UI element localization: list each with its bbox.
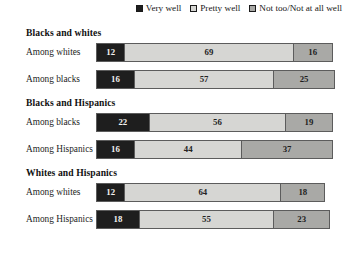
chart-group: Blacks and HispanicsAmong blacks225619Am…	[0, 94, 348, 164]
stacked-bar: 126418	[96, 183, 340, 202]
legend-entry-pretty: Pretty well	[190, 3, 240, 13]
bar-segment-value: 19	[305, 118, 314, 127]
chart-row: Among Hispanics164437	[0, 137, 348, 164]
stacked-bar: 165725	[96, 70, 340, 89]
stacked-bar: 164437	[96, 140, 340, 159]
bar-segment-not: 16	[294, 43, 333, 62]
legend-label-not: Not too/Not at all well	[259, 3, 342, 13]
row-label: Among whites	[26, 47, 81, 58]
legend-swatch-very	[136, 5, 143, 12]
bar-segment-value: 12	[106, 188, 115, 197]
bar-segment-pretty: 69	[125, 43, 293, 62]
chart-group: Blacks and whitesAmong whites126916Among…	[0, 24, 348, 94]
bar-segment-value: 12	[106, 48, 115, 57]
group-title: Blacks and Hispanics	[0, 94, 348, 110]
chart-row: Among whites126418	[0, 180, 348, 207]
row-label: Among Hispanics	[26, 214, 93, 225]
bar-segment-value: 16	[111, 145, 120, 154]
bar-segment-value: 25	[300, 75, 309, 84]
legend-label-pretty: Pretty well	[200, 3, 240, 13]
bar-segment-very: 16	[96, 70, 135, 89]
legend-label-very: Very well	[146, 3, 181, 13]
chart-group: Whites and HispanicsAmong whites126418Am…	[0, 164, 348, 234]
bar-segment-value: 37	[283, 145, 292, 154]
chart-legend: Very wellPretty wellNot too/Not at all w…	[0, 3, 348, 13]
bar-segment-value: 22	[118, 118, 127, 127]
bar-segment-value: 16	[111, 75, 120, 84]
bar-segment-very: 12	[96, 183, 125, 202]
stacked-bar-chart: Very wellPretty wellNot too/Not at all w…	[0, 0, 348, 258]
stacked-bar: 225619	[96, 113, 340, 132]
bar-segment-value: 16	[308, 48, 317, 57]
chart-plot-area: Blacks and whitesAmong whites126916Among…	[0, 24, 348, 234]
bar-segment-not: 23	[274, 210, 330, 229]
legend-entry-very: Very well	[136, 3, 181, 13]
bar-segment-not: 18	[281, 183, 325, 202]
bar-segment-not: 25	[274, 70, 335, 89]
chart-row: Among blacks165725	[0, 67, 348, 94]
stacked-bar: 185523	[96, 210, 340, 229]
chart-row: Among Hispanics185523	[0, 207, 348, 234]
legend-swatch-pretty	[190, 5, 197, 12]
bar-segment-very: 18	[96, 210, 140, 229]
bar-segment-value: 44	[184, 145, 193, 154]
bar-segment-not: 19	[286, 113, 332, 132]
row-label: Among Hispanics	[26, 144, 93, 155]
bar-segment-pretty: 44	[135, 140, 242, 159]
bar-segment-very: 16	[96, 140, 135, 159]
bar-segment-pretty: 57	[135, 70, 274, 89]
chart-row: Among blacks225619	[0, 110, 348, 137]
group-title: Whites and Hispanics	[0, 164, 348, 180]
chart-row: Among whites126916	[0, 40, 348, 67]
row-label: Among blacks	[26, 117, 80, 128]
bar-segment-pretty: 56	[150, 113, 287, 132]
bar-segment-value: 69	[205, 48, 214, 57]
bar-segment-not: 37	[242, 140, 332, 159]
row-label: Among whites	[26, 187, 81, 198]
legend-swatch-not	[249, 5, 256, 12]
bar-segment-very: 12	[96, 43, 125, 62]
bar-segment-very: 22	[96, 113, 150, 132]
bar-segment-value: 64	[198, 188, 207, 197]
group-title: Blacks and whites	[0, 24, 348, 40]
bar-segment-pretty: 64	[125, 183, 281, 202]
bar-segment-value: 23	[297, 215, 306, 224]
bar-segment-value: 55	[202, 215, 211, 224]
legend-entry-not: Not too/Not at all well	[249, 3, 342, 13]
bar-segment-value: 56	[213, 118, 222, 127]
bar-segment-value: 18	[298, 188, 307, 197]
bar-segment-value: 18	[114, 215, 123, 224]
row-label: Among blacks	[26, 74, 80, 85]
bar-segment-pretty: 55	[140, 210, 274, 229]
stacked-bar: 126916	[96, 43, 340, 62]
bar-segment-value: 57	[200, 75, 209, 84]
